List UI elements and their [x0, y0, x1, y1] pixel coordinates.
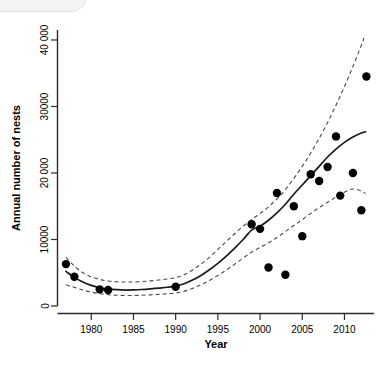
lower-confidence-band — [66, 189, 366, 296]
data-point — [104, 286, 112, 294]
y-tick-label: 20 000 — [40, 157, 51, 188]
y-tick-label: 0 — [40, 303, 51, 309]
data-point — [307, 170, 315, 178]
x-tick-label: 1985 — [122, 324, 145, 335]
data-point — [290, 202, 298, 210]
data-point — [96, 285, 104, 293]
x-tick-label: 1990 — [165, 324, 188, 335]
data-point — [336, 191, 344, 199]
y-tick-label: 10000 — [40, 225, 51, 253]
data-point — [171, 283, 179, 291]
data-point — [323, 163, 331, 171]
data-point — [281, 271, 289, 279]
y-tick-label: 30000 — [40, 92, 51, 120]
fitted-trend-line — [66, 132, 366, 290]
y-axis-title: Annual number of nests — [10, 105, 22, 231]
x-tick-label: 1995 — [207, 324, 230, 335]
x-tick-label: 2000 — [249, 324, 272, 335]
upper-confidence-band — [66, 38, 364, 282]
data-point — [264, 263, 272, 271]
y-axis — [51, 30, 58, 306]
x-tick-labels: 1980198519901995200020052010 — [80, 324, 356, 335]
data-point — [273, 189, 281, 197]
data-point — [62, 260, 70, 268]
data-point — [70, 273, 78, 281]
x-tick-label: 1980 — [80, 324, 103, 335]
x-axis — [58, 314, 375, 321]
data-point — [349, 169, 357, 177]
y-tick-marks — [51, 40, 58, 306]
y-tick-label: 40 000 — [40, 24, 51, 55]
y-tick-labels: 01000020 0003000040 000 — [40, 24, 51, 309]
data-point — [256, 225, 264, 233]
data-point — [362, 72, 370, 80]
data-point — [357, 206, 365, 214]
figure-root: 01000020 0003000040 000 1980198519901995… — [0, 0, 382, 370]
x-tick-marks — [91, 314, 344, 321]
x-tick-label: 2010 — [333, 324, 356, 335]
data-point — [247, 220, 255, 228]
x-axis-title: Year — [204, 338, 228, 350]
data-points-layer — [62, 72, 371, 294]
data-point — [315, 177, 323, 185]
x-tick-label: 2005 — [291, 324, 314, 335]
data-point — [332, 132, 340, 140]
nest-trend-scatter-chart: 01000020 0003000040 000 1980198519901995… — [0, 0, 382, 370]
data-point — [298, 232, 306, 240]
